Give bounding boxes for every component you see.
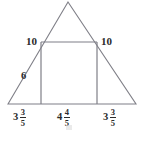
label-base-segment-left: 3 3 5 [13,108,26,127]
base-middle-numerator: 4 [64,108,69,117]
base-right-numerator: 3 [110,108,115,117]
label-base-segment-right: 3 3 5 [103,108,116,127]
label-left-slant-lower: 6 [21,71,26,82]
base-left-numerator: 3 [20,108,25,117]
label-right-slant-upper: 10 [101,36,112,47]
geometry-figure: 10 10 6 3 3 5 4 4 5 3 3 5 [0,0,141,143]
triangle-outline [8,2,136,104]
base-right-fraction: 3 5 [110,108,116,127]
label-left-slant-upper: 10 [26,36,37,47]
inscribed-square [41,42,97,104]
base-left-fraction: 3 5 [20,108,26,127]
base-right-denominator: 5 [110,118,115,127]
base-left-whole: 3 [13,112,18,123]
base-left-denominator: 5 [20,118,25,127]
base-right-whole: 3 [103,112,108,123]
base-middle-whole: 4 [57,112,62,123]
page-edge-artifact [66,125,72,130]
